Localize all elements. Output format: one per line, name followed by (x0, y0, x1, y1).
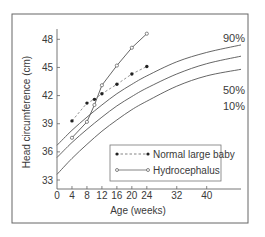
open-point (85, 120, 88, 123)
filled-dot-icon (115, 152, 118, 155)
open-dot-icon (147, 169, 150, 172)
filled-point (93, 98, 96, 101)
x-tick-label: 40 (201, 190, 213, 201)
x-axis-label: Age (weeks) (110, 205, 166, 216)
open-point (115, 64, 118, 67)
y-tick-label: 48 (42, 34, 54, 45)
filled-point (130, 72, 133, 75)
filled-point (100, 92, 103, 95)
open-dot-icon (116, 169, 119, 172)
legend-label-hydrocephalus: Hydrocephalus (153, 165, 220, 176)
open-point (93, 103, 96, 106)
filled-dot-icon (146, 152, 149, 155)
open-point (70, 136, 73, 139)
percentile-label: 50% (223, 84, 245, 96)
open-point (145, 32, 148, 35)
x-tick-label: 24 (141, 190, 153, 201)
percentile-label: 10% (223, 100, 245, 112)
x-tick-label: 32 (171, 190, 183, 201)
legend-label-normal: Normal large baby (153, 149, 235, 160)
filled-point (70, 119, 73, 122)
filled-point (115, 83, 118, 86)
filled-point (85, 101, 88, 104)
y-tick-label: 39 (42, 118, 54, 129)
x-tick-label: 20 (126, 190, 138, 201)
x-tick-label: 0 (54, 190, 60, 201)
x-tick-label: 16 (111, 190, 123, 201)
y-tick-label: 42 (42, 90, 54, 101)
x-tick-label: 12 (96, 190, 108, 201)
y-tick-label: 33 (42, 175, 54, 186)
filled-point (145, 65, 148, 68)
open-point (100, 84, 103, 87)
legend: Normal large baby Hydrocephalus (110, 145, 235, 181)
growth-chart: 333639424548048121620243240 90%50%10% Ag… (0, 0, 265, 237)
y-tick-label: 36 (42, 146, 54, 157)
x-tick-label: 8 (84, 190, 90, 201)
y-tick-label: 45 (42, 62, 54, 73)
x-tick-label: 4 (69, 190, 75, 201)
percentile-label: 90% (223, 32, 245, 44)
y-axis-label: Head circumference (cm) (21, 56, 32, 168)
open-point (130, 46, 133, 49)
